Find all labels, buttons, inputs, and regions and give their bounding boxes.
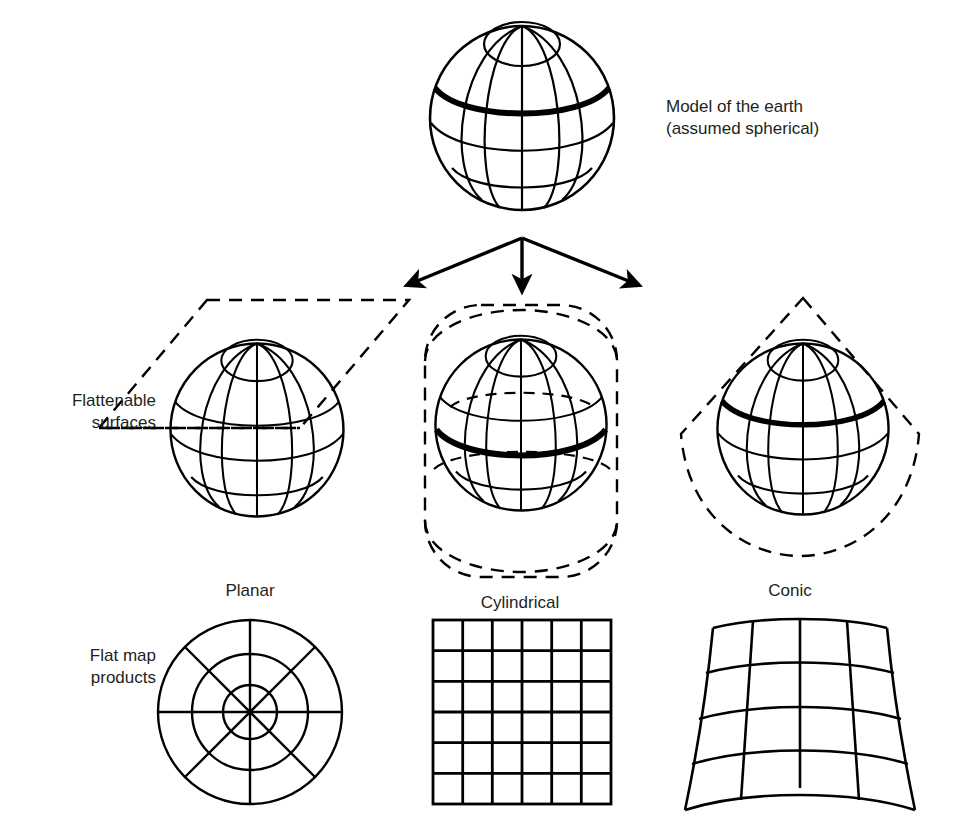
model-of-earth-label-line2: (assumed spherical) xyxy=(666,119,819,138)
flat-map-conic xyxy=(685,618,915,810)
model-of-earth-globe xyxy=(430,22,614,210)
flat-map-cylindrical xyxy=(433,620,611,804)
flat-map-products-label: Flat map products xyxy=(8,645,156,689)
model-of-earth-label-line1: Model of the earth xyxy=(666,97,803,116)
cylinder-bottom-ellipse xyxy=(425,521,617,572)
conic-surface-group xyxy=(681,298,919,556)
flattenable-surfaces-label: Flattenable surfaces xyxy=(8,390,156,434)
conic-label: Conic xyxy=(700,580,880,602)
arrow-to-planar xyxy=(410,238,522,284)
conic-row-4 xyxy=(685,795,915,810)
cylindrical-label: Cylindrical xyxy=(430,592,610,614)
cylindrical-globe xyxy=(435,336,606,511)
planar-label: Planar xyxy=(160,580,340,602)
flat-map-planar xyxy=(158,620,342,804)
arrow-to-conic xyxy=(522,238,636,284)
cylindrical-surface-group xyxy=(425,305,617,577)
branch-arrows xyxy=(410,238,636,288)
model-of-earth-label: Model of the earth(assumed spherical) xyxy=(666,96,819,140)
